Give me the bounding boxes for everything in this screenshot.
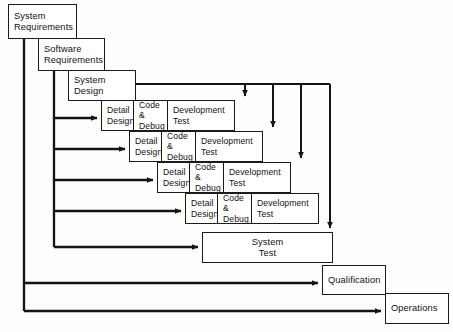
node-code-debug-4-label: Code & Debug xyxy=(223,193,246,223)
node-system-requirements: System Requirements xyxy=(8,4,77,39)
node-code-debug-4: Code & Debug xyxy=(217,193,252,224)
node-qualification: Qualification xyxy=(322,265,386,295)
node-code-debug-1-label: Code & Debug xyxy=(139,100,162,130)
node-development-test-4: Development Test xyxy=(251,193,319,224)
node-system-requirements-label: System Requirements xyxy=(14,11,71,33)
node-development-test-2: Development Test xyxy=(195,131,263,162)
node-development-test-2-label: Development Test xyxy=(201,136,257,156)
node-operations-label: Operations xyxy=(391,303,443,314)
waterfall-lifecycle-diagram: System Requirements Software Requirement… xyxy=(0,0,453,332)
node-system-test-label: System Test xyxy=(252,237,284,259)
node-code-debug-2: Code & Debug xyxy=(161,131,196,162)
node-development-test-4-label: Development Test xyxy=(257,198,313,218)
node-code-debug-2-label: Code & Debug xyxy=(167,131,190,161)
node-code-debug-3: Code & Debug xyxy=(189,162,224,193)
node-detail-design-4-label: Detail Design xyxy=(191,198,212,218)
node-development-test-3: Development Test xyxy=(223,162,291,193)
node-detail-design-1: Detail Design xyxy=(101,100,134,131)
node-detail-design-1-label: Detail Design xyxy=(107,105,128,125)
node-detail-design-3-label: Detail Design xyxy=(163,167,184,187)
node-detail-design-2-label: Detail Design xyxy=(135,136,156,156)
node-software-requirements-label: Software Requirements xyxy=(44,44,99,66)
node-development-test-1: Development Test xyxy=(167,100,235,131)
node-development-test-3-label: Development Test xyxy=(229,167,285,187)
node-code-debug-3-label: Code & Debug xyxy=(195,162,218,192)
node-system-test: System Test xyxy=(202,232,333,263)
node-detail-design-3: Detail Design xyxy=(157,162,190,193)
node-detail-design-2: Detail Design xyxy=(129,131,162,162)
node-qualification-label: Qualification xyxy=(328,275,380,286)
node-development-test-1-label: Development Test xyxy=(173,105,229,125)
node-detail-design-4: Detail Design xyxy=(185,193,218,224)
node-system-design: System Design xyxy=(68,70,136,101)
node-code-debug-1: Code & Debug xyxy=(133,100,168,131)
node-system-design-label: System Design xyxy=(74,75,130,97)
node-operations: Operations xyxy=(385,293,449,324)
node-software-requirements: Software Requirements xyxy=(38,38,105,71)
